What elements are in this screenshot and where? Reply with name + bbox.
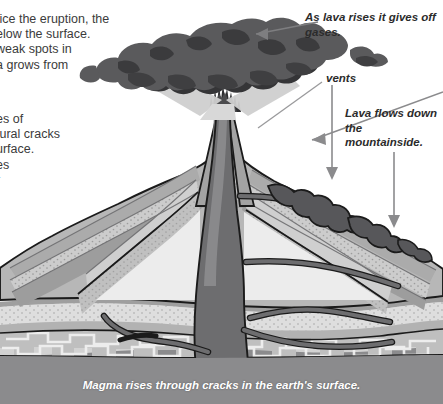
callout-label-lava-flows: Lava flows down the mountainside. [345,106,443,150]
body-line: es of [0,112,60,127]
diagram-canvas: tice the eruption, the elow the surface.… [0,0,443,404]
body-line: tural cracks [0,127,60,142]
callout-label-gases: As lava rises it gives off gases. [305,10,437,39]
body-line: urface. [0,142,60,157]
body-line: a grows from [0,58,109,73]
caption-magma-rises: Magma rises through cracks in the earth'… [0,379,443,391]
arrow-vents [326,85,338,180]
body-line: r [0,173,60,188]
callout-label-vents: vents [326,71,356,86]
body-text-block-a: tice the eruption, the elow the surface.… [0,12,109,73]
arrow-lava-flows [388,152,400,228]
body-line: tice the eruption, the [0,12,109,27]
body-text-block-b: es of tural cracks urface. es r [0,112,60,188]
body-line: weak spots in [0,42,109,57]
body-line: es [0,158,60,173]
body-line: elow the surface. [0,27,109,42]
